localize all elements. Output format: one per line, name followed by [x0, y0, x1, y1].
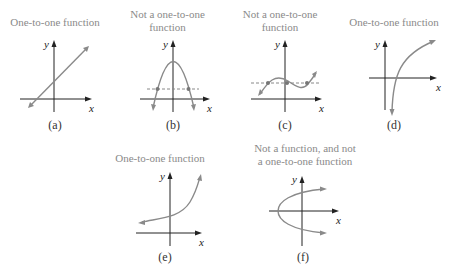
svg-text:y: y: [374, 38, 380, 50]
svg-text:y: y: [162, 38, 168, 50]
panel-d-caption: (d): [379, 118, 409, 133]
svg-text:x: x: [206, 102, 212, 114]
svg-text:x: x: [198, 236, 204, 248]
panel-a-caption: (a): [40, 118, 70, 133]
panel-d: One-to-one function y x (d): [335, 0, 453, 140]
svg-text:y: y: [274, 38, 280, 50]
svg-text:x: x: [318, 102, 324, 114]
panel-e: One-to-one function y x (e): [100, 140, 220, 273]
panel-c-caption: (c): [270, 118, 300, 133]
svg-text:y: y: [43, 38, 49, 50]
svg-text:x: x: [335, 214, 341, 226]
panel-f: Not a function, and not a one-to-one fun…: [240, 140, 380, 273]
svg-text:y: y: [159, 170, 165, 182]
panel-b-caption: (b): [158, 118, 188, 133]
panel-b: Not a one-to-one function y x (b): [110, 0, 225, 140]
svg-text:x: x: [88, 102, 94, 114]
panel-e-caption: (e): [150, 250, 180, 265]
panel-f-caption: (f): [288, 250, 318, 265]
svg-text:y: y: [291, 173, 297, 185]
panel-c: Not a one-to-one function y x (c): [220, 0, 340, 140]
panel-a: One-to-one function y x (a): [0, 0, 115, 140]
svg-text:x: x: [435, 81, 441, 93]
